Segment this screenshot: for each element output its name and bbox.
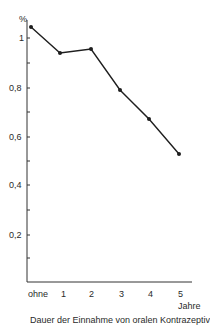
y-tick-label-0-6: 0,6	[9, 132, 22, 142]
y-tick-label-1: 1	[19, 33, 24, 43]
data-line	[31, 27, 179, 154]
line-chart: % 1 0,8 0,6 0,4 0,2 ohne 1 2 3 4 5 Jahre	[0, 0, 210, 331]
x-tick-label-3: 3	[119, 289, 124, 299]
data-point-3	[118, 88, 122, 92]
data-point-2	[89, 47, 93, 51]
y-tick-label-0-8: 0,8	[9, 83, 22, 93]
data-point-5	[177, 152, 181, 156]
x-axis-unit-label: Jahre	[178, 301, 201, 311]
y-tick-label-0-4: 0,4	[9, 180, 22, 190]
x-tick-label-1: 1	[61, 289, 66, 299]
y-tick-label-0-2: 0,2	[9, 230, 22, 240]
data-points	[29, 25, 181, 156]
x-tick-label-5: 5	[178, 289, 183, 299]
y-unit-label: %	[19, 14, 27, 24]
x-tick-label-ohne: ohne	[28, 289, 48, 299]
x-tick-label-4: 4	[148, 289, 153, 299]
chart-caption: Dauer der Einnahme von oralen Kontrazept…	[30, 315, 210, 325]
x-tick-label-2: 2	[89, 289, 94, 299]
data-point-4	[147, 117, 151, 121]
data-point-1	[58, 51, 62, 55]
data-point-ohne	[29, 25, 33, 29]
